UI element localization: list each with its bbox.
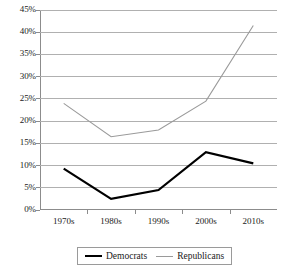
legend-item-label: Republicans — [177, 251, 224, 261]
y-axis-tick-label: 25% — [0, 94, 36, 103]
series-line-democrats — [64, 152, 254, 199]
plot-area — [40, 10, 277, 210]
x-axis-tick-label: 1970s — [40, 216, 87, 227]
legend-item-democrats[interactable]: Democrats — [85, 251, 147, 261]
y-axis-labels: 0%5%10%15%20%25%30%35%40%45% — [0, 10, 36, 210]
x-axis-tick — [135, 210, 136, 214]
legend-item-label: Democrats — [106, 251, 147, 261]
legend-swatch-icon — [156, 256, 173, 257]
y-axis-tick-label: 0% — [0, 205, 36, 214]
y-axis-tick-label: 40% — [0, 27, 36, 36]
x-axis-tick — [182, 210, 183, 214]
legend-item-republicans[interactable]: Republicans — [156, 251, 224, 261]
y-axis-tick-label: 5% — [0, 183, 36, 192]
series-container — [40, 10, 277, 210]
y-axis-tick-label: 10% — [0, 161, 36, 170]
y-axis-tick-label: 20% — [0, 116, 36, 125]
x-axis-tick — [230, 210, 231, 214]
line-chart: 0%5%10%15%20%25%30%35%40%45% 1970s1980s1… — [0, 0, 289, 271]
x-axis-tick-label: 1980s — [87, 216, 134, 227]
y-axis-tick-label: 45% — [0, 5, 36, 14]
legend-swatch-icon — [85, 255, 102, 257]
x-axis-tick-label: 1990s — [135, 216, 182, 227]
y-axis-tick-label: 30% — [0, 72, 36, 81]
x-axis-tick-label: 2010s — [230, 216, 277, 227]
y-axis-tick-label: 15% — [0, 138, 36, 147]
x-axis-labels: 1970s1980s1990s2000s2010s — [40, 216, 277, 230]
chart-legend: DemocratsRepublicans — [77, 247, 232, 265]
series-line-republicans — [64, 26, 254, 137]
x-axis-tick-label: 2000s — [182, 216, 229, 227]
y-axis-tick-label: 35% — [0, 49, 36, 58]
x-axis-tick — [87, 210, 88, 214]
